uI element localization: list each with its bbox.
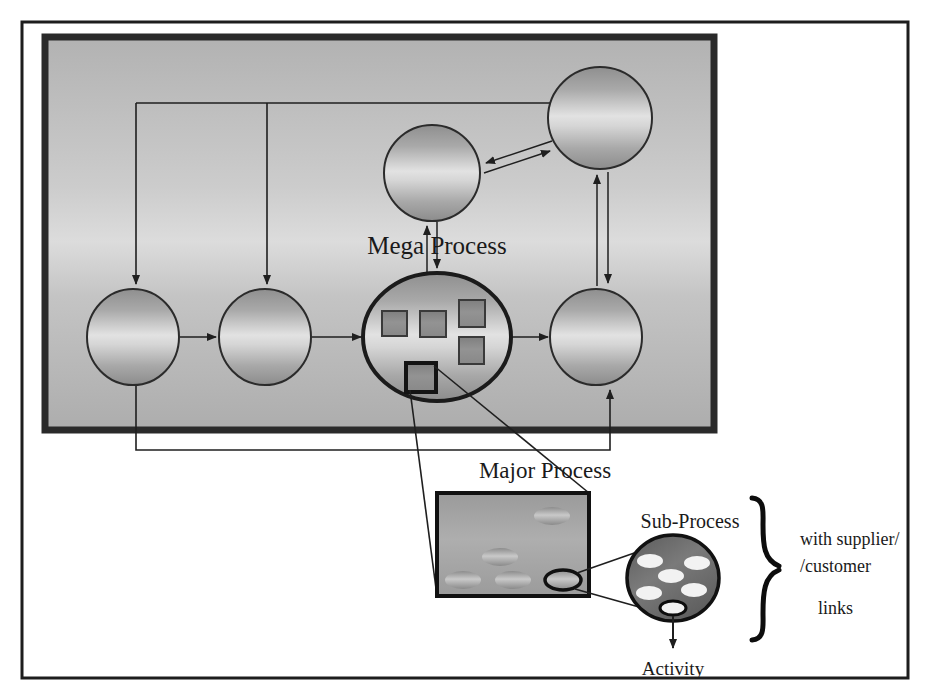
major-process-label: Major Process: [479, 458, 611, 483]
mega-square-highlighted[interactable]: [406, 363, 436, 392]
sub-ellipse-highlighted[interactable]: [660, 601, 686, 615]
major-process-group: [437, 493, 589, 596]
sub-ellipse-3[interactable]: [658, 569, 684, 583]
sub-process-label: Sub-Process: [641, 510, 740, 532]
process-hierarchy-diagram: Mega Process Major Process Sub-Process A…: [0, 0, 930, 700]
sub-ellipse-5[interactable]: [636, 586, 662, 600]
sub-ellipse-2[interactable]: [684, 556, 710, 570]
sub-ellipse-1[interactable]: [637, 554, 663, 568]
bracket-label-line1: with supplier/: [800, 529, 900, 549]
diagram-canvas: Mega Process Major Process Sub-Process A…: [0, 0, 930, 700]
mega-square-1[interactable]: [382, 311, 407, 336]
bracket-label-line2: /customer: [800, 556, 871, 576]
major-ellipse-highlighted[interactable]: [545, 570, 581, 590]
mega-node-left-1[interactable]: [87, 289, 179, 385]
mega-node-upper-right[interactable]: [548, 67, 652, 169]
sub-ellipse-4[interactable]: [681, 583, 707, 597]
mega-node-left-2[interactable]: [219, 289, 311, 385]
mega-square-4[interactable]: [459, 337, 484, 364]
mega-node-right[interactable]: [550, 289, 642, 385]
mega-node-upper-mid[interactable]: [384, 125, 480, 221]
bracket-label-line3: links: [818, 598, 853, 618]
major-ellipse-3[interactable]: [445, 571, 481, 589]
mega-square-3[interactable]: [459, 300, 485, 327]
activity-label: Activity: [642, 658, 705, 679]
major-ellipse-2[interactable]: [482, 548, 518, 566]
mega-square-2[interactable]: [420, 311, 446, 337]
major-ellipse-1[interactable]: [534, 507, 570, 525]
sub-process-group: [627, 535, 719, 621]
major-ellipse-4[interactable]: [495, 571, 531, 589]
mega-process-label: Mega Process: [367, 232, 507, 259]
